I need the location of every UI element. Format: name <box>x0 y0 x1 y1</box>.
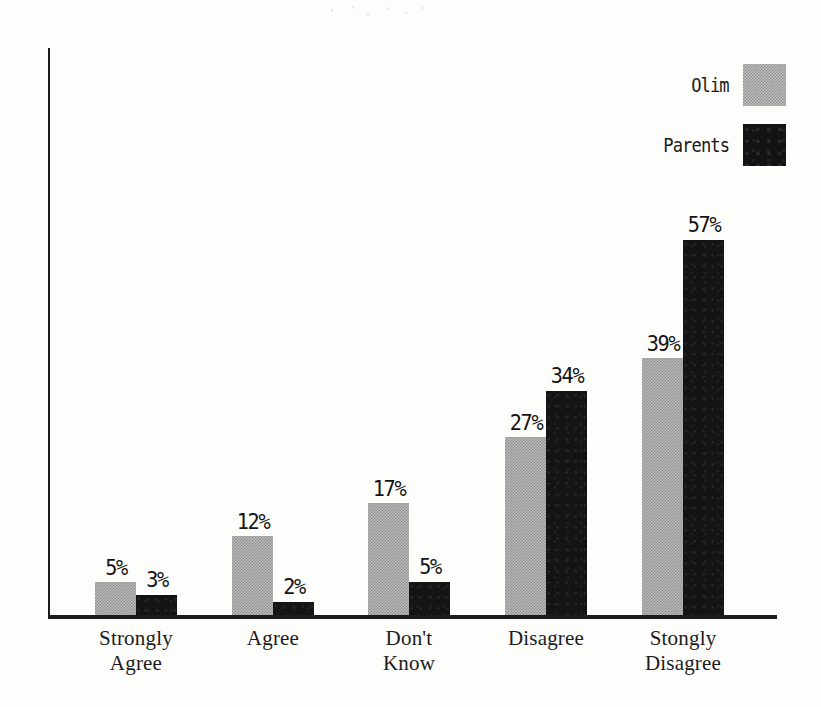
scan-artifact-top <box>320 4 440 20</box>
legend-label-olim: Olim <box>691 74 729 96</box>
x-axis-line <box>48 615 777 619</box>
bar-olim-don-t-know: 17% <box>368 503 409 615</box>
legend-item-olim: Olim <box>626 64 786 106</box>
grouped-bar-chart: 5%3%12%2%17%5%27%34%39%57% StronglyAgree… <box>0 0 821 707</box>
bar-pair: 39%57% <box>642 240 724 615</box>
bar-parents-strongly-agree: 3% <box>136 595 177 615</box>
category-label-line: Stongly <box>602 626 764 651</box>
gray-halftone-swatch <box>743 64 786 106</box>
bar-group: 12%2% <box>232 48 314 615</box>
category-label-line: Agree <box>55 651 217 676</box>
bar-olim-strongly-agree: 5% <box>95 582 136 615</box>
bar-value-label: 3% <box>146 567 168 592</box>
legend-item-parents: Parents <box>626 124 786 166</box>
chart-legend: Olim Parents <box>626 58 786 170</box>
bar-pair: 27%34% <box>505 391 587 615</box>
bar-parents-disagree: 34% <box>546 391 587 615</box>
bar-value-label: 57% <box>687 212 719 237</box>
category-axis-labels: StronglyAgreeAgreeDon'tKnowDisagreeStong… <box>50 626 777 696</box>
bar-pair: 17%5% <box>368 503 450 615</box>
bar-value-label: 34% <box>550 363 582 388</box>
category-label-stongly-disagree: StonglyDisagree <box>602 626 764 676</box>
bar-olim-disagree: 27% <box>505 437 546 615</box>
bar-group: 27%34% <box>505 48 587 615</box>
bar-group: 5%3% <box>95 48 177 615</box>
bar-parents-agree: 2% <box>273 602 314 615</box>
black-solid-swatch <box>743 124 786 166</box>
bar-parents-don-t-know: 5% <box>409 582 450 615</box>
bar-pair: 5%3% <box>95 582 177 615</box>
bar-value-label: 2% <box>283 574 305 599</box>
bar-pair: 12%2% <box>232 536 314 615</box>
bar-value-label: 5% <box>105 555 127 580</box>
bar-value-label: 27% <box>509 410 541 435</box>
bar-group: 17%5% <box>368 48 450 615</box>
bar-value-label: 17% <box>372 476 404 501</box>
bar-value-label: 5% <box>419 554 441 579</box>
bar-olim-stongly-disagree: 39% <box>642 358 683 615</box>
bar-value-label: 12% <box>236 509 268 534</box>
bar-olim-agree: 12% <box>232 536 273 615</box>
category-label-line: Disagree <box>602 651 764 676</box>
category-label-line: Know <box>328 651 490 676</box>
bar-value-label: 39% <box>646 331 678 356</box>
bar-parents-stongly-disagree: 57% <box>683 240 724 615</box>
legend-label-parents: Parents <box>663 134 729 156</box>
